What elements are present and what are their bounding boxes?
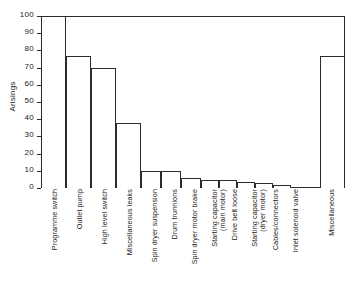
bar bbox=[41, 16, 66, 188]
bar bbox=[201, 180, 219, 188]
x-axis-label-line: Programme switch bbox=[51, 189, 59, 293]
bar bbox=[141, 171, 161, 188]
x-axis-label-text: Drum trunnions bbox=[171, 189, 179, 293]
x-axis-label-text: Cables/connectors bbox=[272, 189, 280, 293]
y-axis-tick-label: 90 bbox=[25, 27, 35, 37]
y-axis-tick-label: 70 bbox=[25, 62, 35, 72]
y-axis-tick-label: 20 bbox=[25, 148, 35, 158]
x-axis-label-line: Outlet pump bbox=[76, 189, 84, 293]
bar-chart-figure: Arisings 0102030405060708090100 Programm… bbox=[0, 0, 363, 296]
x-axis-label-line: (main motor) bbox=[219, 189, 227, 293]
x-axis-label-text: High level switch bbox=[101, 189, 109, 293]
bar bbox=[255, 183, 273, 188]
x-axis-label-line: High level switch bbox=[101, 189, 109, 293]
bar bbox=[237, 182, 255, 188]
bar bbox=[91, 68, 116, 188]
x-axis-label-line: Drive belt loose bbox=[231, 189, 239, 293]
y-axis-tick-label: 30 bbox=[25, 130, 35, 140]
y-axis-tick-label: 100 bbox=[20, 10, 34, 20]
x-axis-label-text: Starting capacitor(main motor) bbox=[211, 189, 227, 293]
y-axis-title: Arisings bbox=[8, 67, 17, 127]
bar bbox=[181, 178, 201, 188]
x-axis-label-text: Spin dryer suspension bbox=[151, 189, 159, 293]
x-axis-label-text: Miscellaneous leaks bbox=[126, 189, 134, 293]
x-axis-label-text: Drive belt loose bbox=[231, 189, 239, 293]
y-axis-tick-label: 50 bbox=[25, 96, 35, 106]
y-axis-tick-label: 10 bbox=[25, 165, 35, 175]
bars-group bbox=[41, 16, 345, 188]
bar bbox=[161, 171, 181, 188]
x-axis-label-text: Inlet solenoid valve bbox=[292, 189, 300, 293]
y-axis-tick-label: 40 bbox=[25, 113, 35, 123]
y-axis-tick-label: 0 bbox=[29, 182, 34, 192]
x-axis-label-text: Programme switch bbox=[51, 189, 59, 293]
x-axis-label-text: Spin dryer motor brake bbox=[191, 189, 199, 293]
bar bbox=[320, 56, 345, 188]
bar bbox=[66, 56, 91, 188]
bar bbox=[116, 123, 141, 188]
bar bbox=[273, 185, 291, 188]
x-axis-label-line: Miscellaneous leaks bbox=[126, 189, 134, 293]
x-axis-label-text: Outlet pump bbox=[76, 189, 84, 293]
x-axis-labels: Programme switchOutlet pumpHigh level sw… bbox=[41, 189, 345, 296]
bar bbox=[219, 180, 237, 188]
y-axis-tick-label: 60 bbox=[25, 79, 35, 89]
x-axis-label-line: Spin dryer suspension bbox=[151, 189, 159, 293]
x-axis-label-line: Drum trunnions bbox=[171, 189, 179, 293]
x-axis-label-line: Miscellaneous bbox=[328, 189, 336, 293]
x-axis-label-text: Miscellaneous bbox=[328, 189, 336, 293]
x-axis-label-text: Starting capacitor(dryer motor) bbox=[251, 189, 267, 293]
x-axis-label-line: Cables/connectors bbox=[272, 189, 280, 293]
y-axis-tick-label: 80 bbox=[25, 44, 35, 54]
x-axis-label-line: Spin dryer motor brake bbox=[191, 189, 199, 293]
x-axis-label-line: Inlet solenoid valve bbox=[292, 189, 300, 293]
x-axis-label-line: (dryer motor) bbox=[259, 189, 267, 293]
